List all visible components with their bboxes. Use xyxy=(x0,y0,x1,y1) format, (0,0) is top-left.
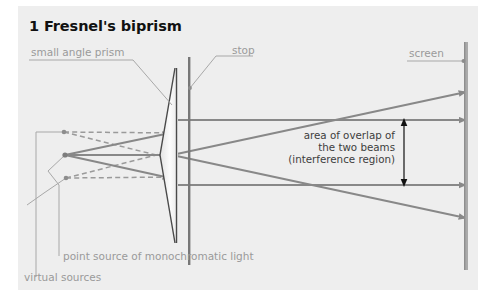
figure-title: 1 Fresnel's biprism xyxy=(29,18,182,34)
overlap-line-2: the two beams xyxy=(288,141,395,153)
source-points xyxy=(62,130,69,181)
label-screen: screen xyxy=(409,47,444,59)
overlap-dimension-arrow xyxy=(401,118,408,187)
incident-rays xyxy=(65,133,172,178)
screen-bar xyxy=(464,42,468,270)
figure-root: 1 Fresnel's biprism small angle prism st… xyxy=(0,0,493,306)
label-interference-region: area of overlap of the two beams (interf… xyxy=(288,129,395,166)
overlap-line-3: (interference region) xyxy=(288,153,395,165)
label-small-angle-prism: small angle prism xyxy=(31,46,124,58)
leader-lines xyxy=(27,56,466,277)
label-virtual-sources: virtual sources xyxy=(24,271,101,283)
label-stop: stop xyxy=(232,44,255,56)
label-point-source: point source of monochromatic light xyxy=(63,250,254,262)
overlap-line-1: area of overlap of xyxy=(288,129,395,141)
